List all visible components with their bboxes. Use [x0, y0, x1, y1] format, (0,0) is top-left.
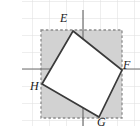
- geometry-diagram: [0, 0, 140, 126]
- vertex-label-F: F: [123, 59, 130, 71]
- vertex-label-H: H: [30, 80, 39, 92]
- geometry-figure-container: 7. E F G H: [0, 0, 140, 126]
- vertex-label-G: G: [97, 116, 106, 126]
- vertex-label-E: E: [60, 12, 67, 24]
